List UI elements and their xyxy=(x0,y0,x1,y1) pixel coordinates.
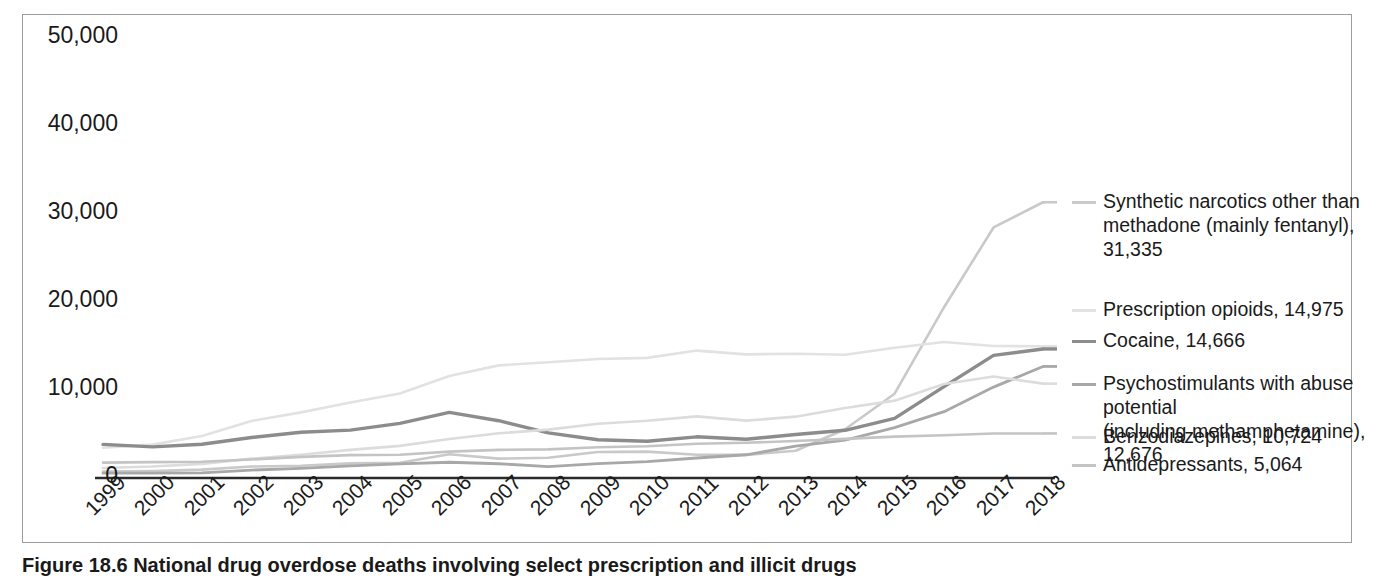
x-axis-tick-label: 2001 xyxy=(180,471,228,519)
x-axis-tick-label: 1999 xyxy=(81,471,129,519)
x-axis-tick-label: 2018 xyxy=(1021,471,1069,519)
legend-label: Benzodiazepines, 10,724 xyxy=(1103,425,1322,449)
x-axis-tick-label: 2017 xyxy=(972,471,1020,519)
legend-swatch-icon xyxy=(1072,340,1096,343)
x-axis-tick-label: 2014 xyxy=(823,471,871,519)
x-axis-tick-label: 2008 xyxy=(526,471,574,519)
x-axis-tick-label: 2002 xyxy=(229,471,277,519)
legend-swatch-icon xyxy=(1072,383,1096,386)
x-axis-tick-label: 2009 xyxy=(576,471,624,519)
x-axis-tick-label: 2011 xyxy=(675,472,722,519)
legend-swatch-icon xyxy=(1072,464,1096,467)
x-axis-tick-label: 2010 xyxy=(625,471,673,519)
x-axis-tick-label: 2000 xyxy=(130,471,178,519)
legend-label: Synthetic narcotics other than methadone… xyxy=(1103,190,1372,261)
legend-entry[interactable]: Synthetic narcotics other than methadone… xyxy=(1072,190,1372,261)
x-axis-tick-label: 2012 xyxy=(724,471,772,519)
legend-label: Prescription opioids, 14,975 xyxy=(1103,298,1344,322)
legend-entry[interactable]: Prescription opioids, 14,975 xyxy=(1072,298,1344,322)
figure-caption: Figure 18.6 National drug overdose death… xyxy=(22,553,1362,578)
x-axis-tick-label: 2004 xyxy=(328,471,376,519)
legend-label: Antidepressants, 5,064 xyxy=(1103,453,1302,477)
legend-entry[interactable]: Benzodiazepines, 10,724 xyxy=(1072,425,1322,449)
x-axis-tick-label: 2016 xyxy=(922,471,970,519)
x-axis-tick-label: 2007 xyxy=(477,471,525,519)
x-axis-tick-label: 2005 xyxy=(378,471,426,519)
legend-label: Cocaine, 14,666 xyxy=(1103,329,1245,353)
x-axis-tick-label: 2013 xyxy=(774,471,822,519)
legend-swatch-icon xyxy=(1072,201,1096,204)
legend-swatch-icon xyxy=(1072,436,1096,439)
x-axis-tick-label: 2006 xyxy=(427,471,475,519)
legend-entry[interactable]: Cocaine, 14,666 xyxy=(1072,329,1245,353)
legend-swatch-icon xyxy=(1072,309,1096,312)
x-axis-tick-label: 2015 xyxy=(873,471,921,519)
x-axis-tick-label: 2003 xyxy=(279,471,327,519)
legend-entry[interactable]: Antidepressants, 5,064 xyxy=(1072,453,1302,477)
